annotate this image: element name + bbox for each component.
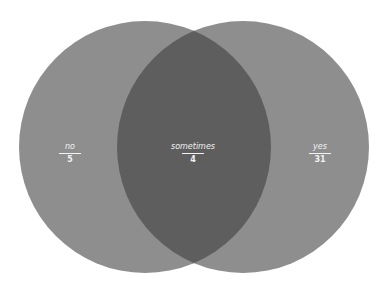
set-name-no: no bbox=[59, 142, 81, 152]
label-sometimes: sometimes 4 bbox=[169, 142, 217, 165]
set-value-yes: 31 bbox=[309, 155, 331, 165]
overlap-value: 4 bbox=[169, 155, 217, 165]
overlap-name: sometimes bbox=[169, 142, 217, 152]
set-name-yes: yes bbox=[309, 142, 331, 152]
divider-sometimes bbox=[182, 153, 204, 154]
set-value-no: 5 bbox=[59, 155, 81, 165]
label-no: no 5 bbox=[59, 142, 81, 165]
label-yes: yes 31 bbox=[309, 142, 331, 165]
divider-no bbox=[59, 153, 81, 154]
divider-yes bbox=[309, 153, 331, 154]
